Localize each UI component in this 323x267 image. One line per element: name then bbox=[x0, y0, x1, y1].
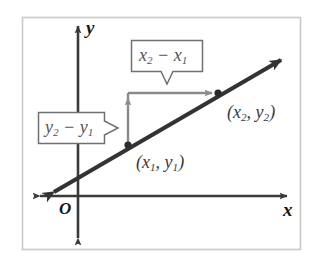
callout-run-label: x2 − x1 bbox=[139, 46, 187, 67]
run-second-sub: 1 bbox=[182, 54, 188, 66]
rise-first-var: y bbox=[45, 117, 53, 137]
run-second-var: x bbox=[174, 45, 182, 65]
rise-second-var: y bbox=[80, 117, 88, 137]
p1-comma: , bbox=[156, 152, 165, 172]
p2-x-var: x bbox=[233, 102, 241, 122]
p2-comma: , bbox=[247, 102, 256, 122]
p1-close: ) bbox=[178, 152, 184, 172]
point-2-label: (x2, y2) bbox=[227, 103, 275, 124]
point-1-marker bbox=[124, 141, 131, 148]
p1-x-var: x bbox=[142, 152, 150, 172]
y-axis-label: y bbox=[86, 18, 94, 37]
rise-operator: − bbox=[59, 117, 80, 137]
run-first-var: x bbox=[139, 45, 147, 65]
p1-y-var: y bbox=[165, 152, 173, 172]
origin-label: O bbox=[59, 200, 71, 217]
x-axis-label: x bbox=[283, 200, 293, 219]
p2-close: ) bbox=[269, 102, 275, 122]
point-1-label: (x1, y1) bbox=[136, 153, 184, 174]
run-operator: − bbox=[153, 45, 174, 65]
callout-rise-label: y2 − y1 bbox=[45, 118, 93, 139]
point-2-marker bbox=[214, 89, 221, 96]
p2-y-var: y bbox=[256, 102, 264, 122]
rise-second-sub: 1 bbox=[88, 126, 94, 138]
slope-diagram-figure: y x O x2 − x1 y2 − y1 (x1, y1) (x2, y2) bbox=[0, 0, 323, 267]
